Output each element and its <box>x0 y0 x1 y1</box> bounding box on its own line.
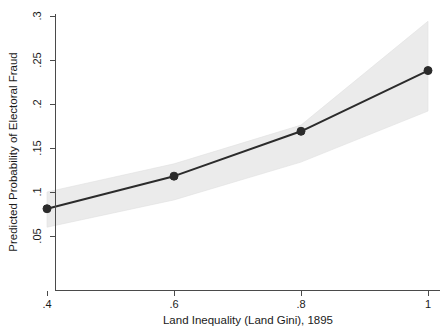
x-axis-tick-labels: .4.6.81 <box>42 298 431 310</box>
y-axis-tick-label: .1 <box>31 187 43 196</box>
x-axis-tick-label: .8 <box>296 298 305 310</box>
plot-area: .3.25.2.15.1.05 .4.6.81 Predicted Probab… <box>0 0 447 331</box>
data-point-marker <box>297 127 305 135</box>
chart-figure: .3.25.2.15.1.05 .4.6.81 Predicted Probab… <box>0 0 447 331</box>
y-axis-tick-label: .05 <box>31 228 43 243</box>
data-point-marker <box>170 172 178 180</box>
x-axis-tick-label: .6 <box>169 298 178 310</box>
data-point-marker <box>43 205 51 213</box>
x-axis-ticks <box>47 291 428 297</box>
y-axis-tick-labels: .3.25.2.15.1.05 <box>31 11 43 243</box>
y-axis-tick-label: .15 <box>31 140 43 155</box>
x-axis-tick-label: .4 <box>42 298 51 310</box>
y-axis-tick-label: .2 <box>31 99 43 108</box>
x-axis-tick-label: 1 <box>425 298 431 310</box>
y-axis-title: Predicted Probability of Electoral Fraud <box>7 52 19 251</box>
confidence-interval-band <box>47 21 428 227</box>
y-axis-tick-label: .25 <box>31 52 43 67</box>
data-point-marker <box>424 67 432 75</box>
y-axis-tick-label: .3 <box>31 11 43 20</box>
x-axis-title: Land Inequality (Land Gini), 1895 <box>163 314 333 326</box>
